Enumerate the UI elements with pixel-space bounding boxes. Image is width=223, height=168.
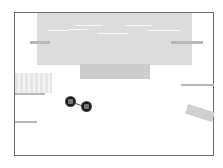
wave-line (47, 30, 69, 31)
left-platform-upper (15, 93, 45, 95)
left-ledge (30, 41, 50, 44)
wave-line (125, 25, 153, 26)
wave-line (147, 30, 181, 31)
striped-crate[interactable] (15, 73, 52, 93)
wave-line (97, 33, 129, 34)
player-two[interactable] (82, 102, 91, 111)
wave-line (69, 29, 89, 30)
left-platform-lower (15, 121, 37, 123)
character-face-icon (84, 104, 89, 109)
player-one[interactable] (66, 97, 75, 106)
pool-step (80, 64, 150, 79)
water-pool (37, 13, 192, 65)
right-platform (181, 84, 214, 86)
character-face-icon (68, 99, 73, 104)
wave-line (75, 25, 103, 26)
right-ledge (171, 41, 203, 44)
